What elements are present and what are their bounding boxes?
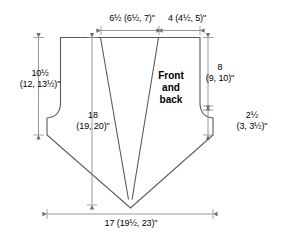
- dimension-text-line: (9, 10)": [194, 73, 246, 84]
- dimension-label-underarm-gusset-height: 2½ (3, 3½)": [222, 110, 282, 132]
- dimension-text-line: 2½: [222, 110, 282, 121]
- dimension-text-line: 17 (19½, 23)": [66, 218, 196, 229]
- dimension-label-total-width: 17 (19½, 23)": [66, 218, 196, 229]
- dimension-text-line: 4 (4½, 5)": [158, 13, 216, 24]
- piece-label-line: and: [144, 82, 198, 94]
- dimension-text-line: (19, 20)": [55, 121, 131, 132]
- dimension-label-armhole-depth: 8 (9, 10)": [194, 62, 246, 84]
- dimension-text-line: (3, 3½)": [222, 121, 282, 132]
- dimension-text-line: 18: [55, 110, 131, 121]
- dimension-label-dart-to-side-width: 4 (4½, 5)": [158, 13, 216, 24]
- schematic-diagram: 6½ (6½, 7)" 4 (4½, 5)" 10½ (12, 13½)" 18…: [0, 0, 284, 241]
- dimension-text-line: 10½: [2, 68, 78, 79]
- piece-label-line: Front: [144, 70, 198, 82]
- dimension-label-side-seam-to-underarm-height: 10½ (12, 13½)": [2, 68, 78, 90]
- dimension-text-line: 8: [194, 62, 246, 73]
- piece-label-line: back: [144, 94, 198, 106]
- dimension-label-center-front-length: 18 (19, 20)": [55, 110, 131, 132]
- pattern-piece-label: Front and back: [144, 70, 198, 106]
- dimension-text-line: (12, 13½)": [2, 79, 78, 90]
